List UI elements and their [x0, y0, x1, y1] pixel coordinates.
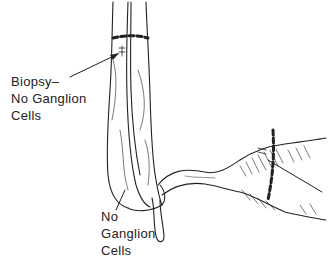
leader-line-right — [268, 160, 322, 192]
label-biopsy-no-ganglion-cells: Biopsy– No Ganglion Cells — [11, 73, 87, 124]
leader-line-lower — [116, 190, 125, 210]
label-line: Biopsy– — [11, 73, 87, 90]
label-line: Ganglion — [101, 225, 155, 242]
left-bowel-limb — [107, 2, 150, 208]
hatching — [240, 146, 316, 214]
label-line: No — [101, 208, 155, 225]
label-line: Cells — [11, 107, 87, 124]
right-bowel-limb — [131, 2, 162, 205]
label-line: No Ganglion — [11, 90, 87, 107]
label-no-ganglion-cells: No Ganglion Cells — [101, 208, 155, 259]
biopsy-mark-upper — [119, 46, 125, 56]
bowel-illustration — [0, 0, 328, 270]
label-line: Cells — [101, 242, 155, 259]
